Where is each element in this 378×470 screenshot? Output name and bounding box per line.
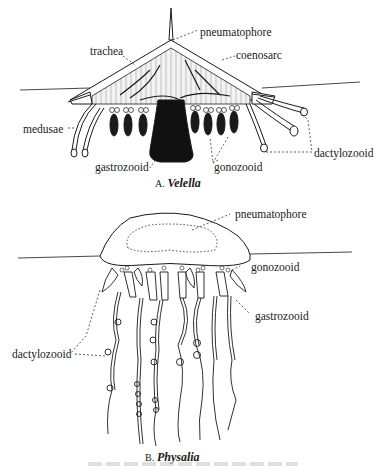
label-b-pneumatophore: pneumatophore <box>235 209 307 221</box>
label-a-trachea: trachea <box>90 46 123 58</box>
caption-a: A. Velella <box>155 177 201 189</box>
label-a-gonozooid: gonozooid <box>214 162 263 174</box>
velella-drawing <box>0 0 378 470</box>
label-b-gonozooid: gonozooid <box>251 262 300 274</box>
label-a-medusae: medusae <box>23 124 63 136</box>
cropped-figure-caption-line <box>88 462 298 466</box>
label-a-coenosarc: coenosarc <box>236 50 282 62</box>
caption-a-letter: A. <box>155 178 165 189</box>
label-b-gastrozooid: gastrozooid <box>255 311 309 323</box>
caption-a-name: Velella <box>167 176 200 190</box>
label-b-dactylozooid: dactylozooid <box>12 349 71 361</box>
label-a-gastrozooid: gastrozooid <box>95 162 149 174</box>
label-a-pneumatophore: pneumatophore <box>200 27 272 39</box>
label-a-dactylozooid: dactylozooid <box>314 148 373 160</box>
